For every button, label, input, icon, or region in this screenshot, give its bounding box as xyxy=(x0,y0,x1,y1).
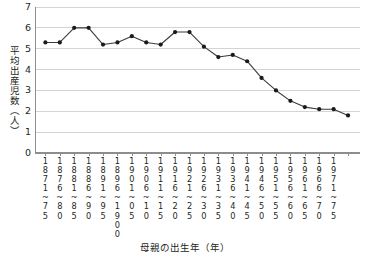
data-point xyxy=(87,26,91,30)
data-point xyxy=(317,107,321,111)
y-axis-tick-label: 4 xyxy=(25,65,31,75)
data-point xyxy=(173,30,177,34)
y-axis-tick-label: 5 xyxy=(25,44,31,54)
data-point xyxy=(144,40,148,44)
data-point xyxy=(159,42,163,46)
x-axis-tick-label: 1 9 7 1 ~ 7 5 xyxy=(326,157,342,221)
data-point xyxy=(216,55,220,59)
data-point xyxy=(72,26,76,30)
data-point xyxy=(245,59,249,63)
data-point xyxy=(202,45,206,49)
y-axis-tick-label: 6 xyxy=(25,23,31,33)
y-axis-tick-label: 7 xyxy=(25,2,31,12)
y-axis-tick-label: 3 xyxy=(25,86,31,96)
data-point xyxy=(259,76,263,80)
plot-area: 01234567 xyxy=(35,7,360,153)
y-axis-tick-label: 0 xyxy=(25,148,31,158)
data-point xyxy=(332,107,336,111)
data-point xyxy=(43,40,47,44)
data-point xyxy=(101,42,105,46)
x-axis-tick-labels: 1 8 7 1 ~ 7 51 8 7 6 ~ 8 01 8 8 1 ~ 8 51… xyxy=(35,157,360,239)
y-axis-tick-label: 1 xyxy=(25,127,31,137)
data-point xyxy=(231,53,235,57)
data-point xyxy=(274,88,278,92)
data-series xyxy=(35,7,360,153)
x-axis-title: 母親の出生年（年） xyxy=(0,242,370,253)
data-point xyxy=(58,40,62,44)
data-point xyxy=(130,34,134,38)
line-chart: 平均出産児数（人） 01234567 1 8 7 1 ~ 7 51 8 7 6 … xyxy=(0,0,370,256)
data-point xyxy=(115,40,119,44)
data-point xyxy=(187,30,191,34)
series-line xyxy=(45,28,348,116)
y-axis-title: 平均出産児数（人） xyxy=(1,30,19,152)
y-axis-tick-label: 2 xyxy=(25,107,31,117)
data-point xyxy=(346,113,350,117)
data-point xyxy=(288,99,292,103)
data-point xyxy=(303,105,307,109)
